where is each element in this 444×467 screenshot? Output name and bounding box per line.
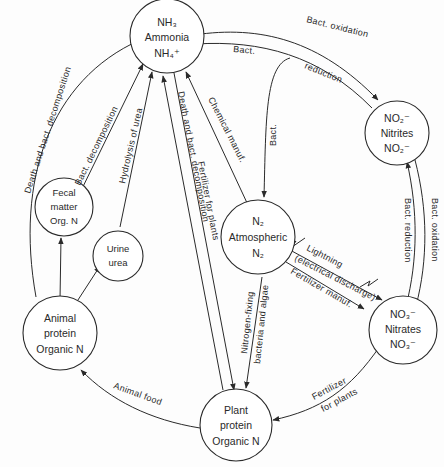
node-urine: Urine urea [93,231,143,281]
nitrites-formula-top: NO₂⁻ [384,112,410,124]
node-animal-protein: Animal protein Organic N [23,296,97,370]
label-death-decomp-left: Death and bact. decomposition [22,65,73,194]
node-ammonia: NH₃ Ammonia NH₄⁺ [130,0,204,73]
node-nitrates: NO₃⁻ Nitrates NO₃⁻ [369,296,437,364]
edge-bact-oxidation-top [194,32,378,100]
urine-label-2: urea [108,257,128,268]
fecal-label-2: matter [51,201,78,212]
label-bact-decomposition: Bact. decomposition [73,105,120,187]
nitrates-label: Nitrates [385,323,421,335]
plant-label-2: protein [220,419,252,431]
diagram-svg: NH₃ Ammonia NH₄⁺ NO₂⁻ Nitrites NO₂⁻ N₂ A… [0,0,444,467]
fecal-label-1: Fecal [52,187,75,198]
nitrites-formula-bottom: NO₂⁻ [384,142,410,154]
fecal-label-3: Org. N [50,215,78,226]
node-fecal-matter: Fecal matter Org. N [35,178,93,236]
label-bact-reduction-top-a: Bact. [233,44,256,56]
edge-animal-fecal [60,238,61,300]
label-bact-oxidation-right: Bact. oxidation [430,198,440,262]
plant-label-1: Plant [224,404,248,416]
label-bact-reduction-top-b: reduction [303,61,344,85]
label-death-decomp-center: Death and bact. decomposition [176,90,211,222]
label-bact-n2: Bact. [268,124,278,146]
nitrates-formula-bottom: NO₃⁻ [390,338,416,350]
ammonium-formula: NH₄⁺ [154,47,179,59]
urine-label-1: Urine [107,243,130,254]
edge-animal-urine [76,266,100,303]
plant-label-3: Organic N [212,435,259,447]
edge-bact-oxidation-right [415,160,425,306]
ammonia-formula: NH₃ [157,16,176,28]
atmospheric-label: Atmospheric [229,231,287,243]
nitrites-label: Nitrites [381,127,414,139]
label-bact-reduction-right: Bact. reduction [403,198,413,263]
nitrogen-cycle-diagram: NH₃ Ammonia NH₄⁺ NO₂⁻ Nitrites NO₂⁻ N₂ A… [0,0,444,467]
animal-label-1: Animal [44,312,76,324]
n2-formula-top: N₂ [252,215,264,227]
n2-formula-bottom: N₂ [252,247,264,259]
node-plant-protein: Plant protein Organic N [200,389,272,461]
nitrates-formula-top: NO₃⁻ [390,308,416,320]
animal-label-3: Organic N [36,343,83,355]
node-atmospheric: N₂ Atmospheric N₂ [221,200,295,274]
label-bact-oxidation-top: Bact. oxidation [306,14,370,39]
animal-label-2: protein [44,327,76,339]
label-animal-food: Animal food [112,380,163,407]
ammonia-label: Ammonia [145,31,190,43]
node-nitrites: NO₂⁻ Nitrites NO₂⁻ [365,101,429,165]
edge-bact-reduction-top [196,43,372,108]
